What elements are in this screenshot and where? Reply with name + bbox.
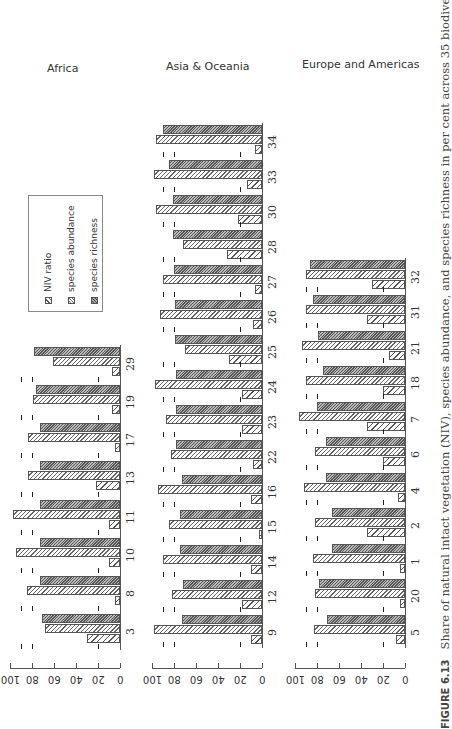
category-label: 26: [266, 310, 279, 324]
abundance-swatch-icon: [68, 297, 75, 304]
reference-dash: [317, 607, 318, 612]
bar-niv: [253, 320, 262, 329]
reference-dash: [163, 292, 164, 297]
bar-rich: [183, 580, 262, 589]
baseline: [405, 258, 406, 648]
category-label: 33: [266, 170, 279, 184]
bar-rich: [176, 440, 262, 449]
bar-rich: [174, 265, 262, 274]
category-label: 14: [266, 555, 279, 569]
axis-tick: [32, 663, 33, 668]
bar-niv: [255, 145, 262, 154]
value-axis: [10, 668, 120, 669]
category-label: 31: [409, 305, 422, 319]
bar-abund: [28, 471, 120, 480]
category-label: 1: [409, 558, 422, 565]
richness-swatch-icon: [91, 297, 98, 304]
category-label: 29: [124, 357, 137, 371]
bar-niv: [383, 457, 405, 466]
reference-dash: [98, 415, 99, 420]
bar-niv: [367, 422, 406, 431]
panel-title-asia-oceania: Asia & Oceania: [166, 60, 250, 73]
reference-dash: [317, 571, 318, 576]
reference-dash: [98, 377, 99, 382]
reference-dash: [98, 453, 99, 458]
bar-niv: [247, 180, 262, 189]
bar-abund: [172, 590, 262, 599]
bar-niv: [398, 493, 405, 502]
category-label: 17: [124, 433, 137, 447]
bar-rich: [40, 576, 120, 585]
bar-abund: [28, 433, 120, 442]
category-label: 15: [266, 520, 279, 534]
bar-abund: [160, 310, 262, 319]
legend-item-richness: species richness: [89, 218, 99, 304]
bar-abund: [314, 625, 405, 634]
reference-dash: [21, 415, 22, 420]
reference-dash: [240, 397, 241, 402]
bar-rich: [175, 300, 262, 309]
reference-dash: [174, 362, 175, 367]
category-label: 19: [124, 395, 137, 409]
bar-niv: [112, 367, 120, 376]
reference-dash: [174, 502, 175, 507]
bar-abund: [302, 341, 405, 350]
bar-rich: [182, 615, 262, 624]
reference-dash: [174, 607, 175, 612]
bar-rich: [319, 579, 405, 588]
bar-niv: [400, 599, 406, 608]
category-label: 32: [409, 270, 422, 284]
reference-dash: [383, 323, 384, 328]
bar-rich: [326, 473, 405, 482]
reference-dash: [306, 358, 307, 363]
reference-dash: [240, 187, 241, 192]
reference-dash: [317, 536, 318, 541]
category-label: 24: [266, 380, 279, 394]
bar-rich: [34, 347, 120, 356]
reference-dash: [306, 429, 307, 434]
category-label: 2: [409, 522, 422, 529]
bar-rich: [317, 402, 405, 411]
reference-dash: [240, 537, 241, 542]
reference-dash: [32, 415, 33, 420]
figure-caption: FIGURE 6.13Share of natural intact veget…: [438, 0, 452, 729]
bar-rich: [332, 544, 405, 553]
bar-abund: [315, 518, 405, 527]
axis-tick: [152, 663, 153, 668]
panel-title-europe-americas: Europe and Americas: [302, 58, 419, 71]
bar-niv: [251, 635, 262, 644]
bar-abund: [154, 170, 262, 179]
reference-dash: [240, 502, 241, 507]
reference-dash: [174, 572, 175, 577]
bar-rich: [40, 538, 120, 547]
reference-dash: [163, 327, 164, 332]
legend-label: species abundance: [66, 205, 76, 292]
caption-text: Share of natural intact vegetation (NIV)…: [438, 0, 452, 649]
bar-niv: [396, 635, 405, 644]
bar-abund: [16, 548, 121, 557]
bar-niv: [372, 280, 405, 289]
bar-niv: [96, 481, 120, 490]
value-axis: [152, 668, 262, 669]
reference-dash: [317, 358, 318, 363]
category-label: 34: [266, 135, 279, 149]
bar-rich: [180, 545, 263, 554]
reference-dash: [32, 530, 33, 535]
bar-rich: [176, 370, 262, 379]
axis-tick: [339, 663, 340, 668]
reference-dash: [21, 568, 22, 573]
reference-dash: [317, 323, 318, 328]
reference-dash: [21, 492, 22, 497]
legend-item-niv: NIV ratio: [43, 253, 53, 304]
reference-dash: [174, 467, 175, 472]
reference-dash: [163, 362, 164, 367]
reference-dash: [21, 530, 22, 535]
reference-dash: [383, 607, 384, 612]
category-label: 12: [266, 590, 279, 604]
reference-dash: [32, 568, 33, 573]
category-label: 27: [266, 275, 279, 289]
category-label: 16: [266, 485, 279, 499]
category-label: 6: [409, 451, 422, 458]
axis-tick: [76, 663, 77, 668]
legend-label: species richness: [89, 218, 99, 292]
